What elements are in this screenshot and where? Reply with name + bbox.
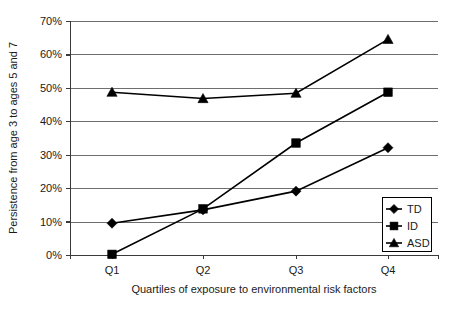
x-axis-title: Quartiles of exposure to environmental r… <box>131 283 377 295</box>
y-axis-tick-label: 40% <box>40 115 62 127</box>
square-marker <box>384 88 393 97</box>
diamond-marker <box>107 218 117 228</box>
legend-label-asd: ASD <box>407 237 430 249</box>
series-line-asd <box>112 39 388 98</box>
y-axis-tick-label: 30% <box>40 149 62 161</box>
y-axis-tick-label: 60% <box>40 48 62 60</box>
square-marker <box>108 250 117 259</box>
y-axis-tick-label: 0% <box>46 249 62 261</box>
y-axis-tick-label: 50% <box>40 82 62 94</box>
square-marker <box>390 222 398 230</box>
legend-label-td: TD <box>407 203 422 215</box>
legend: TDIDASD <box>383 198 432 252</box>
line-chart-canvas: 0%10%20%30%40%50%60%70% Q1Q2Q3Q4 Persist… <box>0 0 451 310</box>
x-axis-tick-label: Q1 <box>105 264 120 276</box>
y-axis-tick-label: 20% <box>40 182 62 194</box>
chart-figure: 0%10%20%30%40%50%60%70% Q1Q2Q3Q4 Persist… <box>0 0 451 310</box>
legend-label-id: ID <box>407 220 418 232</box>
series-line-td <box>112 148 388 224</box>
y-axis-title: Persistence from age 3 to ages 5 and 7 <box>7 42 19 234</box>
x-axis-tick-label: Q2 <box>196 264 211 276</box>
y-axis-tick-labels: 0%10%20%30%40%50%60%70% <box>40 15 62 261</box>
series-group <box>107 34 393 258</box>
y-axis-tick-label: 70% <box>40 15 62 27</box>
diamond-marker <box>383 143 393 153</box>
y-axis-tick-label: 10% <box>40 216 62 228</box>
x-axis-tick-labels: Q1Q2Q3Q4 <box>105 264 396 276</box>
square-marker <box>292 139 301 148</box>
series-id <box>108 88 393 259</box>
square-marker <box>199 205 208 214</box>
x-axis-tick-label: Q3 <box>289 264 304 276</box>
triangle-marker <box>383 34 393 43</box>
series-line-id <box>112 92 388 254</box>
x-axis-tick-label: Q4 <box>381 264 396 276</box>
series-asd <box>107 34 393 102</box>
diamond-marker <box>291 186 301 196</box>
